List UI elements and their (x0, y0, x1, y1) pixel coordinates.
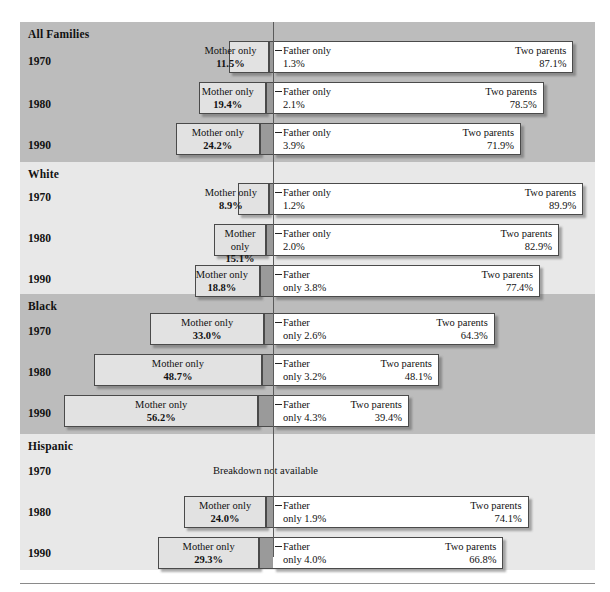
bar-segment-father-only (260, 123, 273, 155)
bar-label-text: Mother only (205, 187, 257, 198)
bar-segment-two-parents: Father only2.0%Two parents82.9% (273, 224, 559, 256)
bar-value-two-parents: 74.1% (495, 513, 522, 524)
bar-label-text: Mother only (183, 541, 235, 552)
bar-label-two-parents: Two parents74.1% (470, 500, 521, 525)
bar-value-father-only: 2.6% (304, 330, 326, 341)
bar-value-father-only: 3.9% (283, 140, 305, 151)
bar-label-text: Mother only (202, 86, 254, 97)
bar-value-mother-only: 11.5% (216, 58, 244, 69)
row-year: 1990 (28, 139, 51, 151)
father-callout-dash (275, 50, 282, 51)
bar-segment-mother-only: Mother only11.5% (229, 41, 269, 73)
bar-value-mother-only: 29.3% (194, 554, 223, 565)
bar-label-mother-only: Mother only24.0% (185, 500, 266, 525)
father-callout-dash (275, 233, 282, 234)
bar-segment-mother-only: Mother only33.0% (150, 313, 264, 345)
bar-value-father-only: 3.8% (304, 282, 326, 293)
bar-value-two-parents: 78.5% (510, 99, 537, 110)
bar-value-father-only: 4.0% (304, 554, 326, 565)
row-year: 1980 (28, 98, 51, 110)
bar-label-text: Two parents (501, 228, 552, 239)
bar-value-two-parents: 48.1% (405, 371, 432, 382)
bar-segment-two-parents: Father only3.9%Two parents71.9% (273, 123, 521, 155)
bar-segment-mother-only: Mother only29.3% (158, 537, 259, 569)
bar-segment-father-only (264, 313, 273, 345)
row-year: 1990 (28, 273, 51, 285)
bar-label-text: Two parents (380, 358, 431, 369)
bar-label-mother-only: Mother only29.3% (159, 541, 258, 566)
bar-value-two-parents: 87.1% (539, 58, 566, 69)
bar-segment-two-parents: Father only2.1%Two parents78.5% (273, 82, 544, 114)
bar-label-two-parents: Two parents82.9% (501, 228, 552, 253)
bar-label-text: Two parents (485, 86, 536, 97)
bar-segment-two-parents: Fatheronly 3.2%Two parents48.1% (273, 354, 439, 386)
bar-segment-mother-only: Mother only48.7% (94, 354, 262, 386)
bar-segment-mother-only: Mother only8.9% (238, 183, 269, 215)
bar-value-father-only: 4.3% (304, 412, 326, 423)
stacked-bar: Mother only11.5%Father only1.3%Two paren… (229, 41, 574, 73)
bar-label-two-parents: Two parents77.4% (482, 269, 533, 294)
row-year: 1970 (28, 325, 51, 337)
row-year: 1970 (28, 465, 51, 477)
bar-value-father-only: 1.3% (283, 58, 305, 69)
father-callout-dash (275, 505, 282, 506)
bar-label-mother-only: Mother only19.4% (189, 86, 267, 111)
bar-segment-two-parents: Fatheronly 4.3%Two parents39.4% (273, 395, 409, 427)
bar-label-mother-only: Mother only11.5% (192, 45, 270, 70)
father-callout-dash (275, 132, 282, 133)
bar-label-text: Mother only (204, 45, 256, 56)
father-callout-dash (275, 363, 282, 364)
bar-label-mother-only: Mother only33.0% (151, 317, 263, 342)
bar-segment-two-parents: Fatheronly 3.8%Two parents77.4% (273, 265, 540, 297)
bar-label-father-only: Father only1.2% (283, 187, 331, 212)
bar-value-two-parents: 77.4% (506, 282, 533, 293)
father-callout-dash (275, 546, 282, 547)
bar-label-text: Two parents (515, 45, 566, 56)
bar-segment-two-parents: Fatheronly 4.0%Two parents66.8% (273, 537, 503, 569)
bar-value-father-only: 1.2% (283, 200, 305, 211)
father-callout-dash (275, 192, 282, 193)
row-year: 1970 (28, 191, 51, 203)
bar-value-mother-only: 18.8% (207, 282, 236, 293)
bar-label-text: Father only (283, 127, 331, 138)
bar-value-mother-only: 56.2% (147, 412, 176, 423)
bar-label-father-only: Father only1.3% (283, 45, 331, 70)
bar-label-two-parents: Two parents89.9% (525, 187, 576, 212)
bar-label-text: Mother only (196, 269, 248, 280)
bar-value-mother-only: 24.2% (203, 140, 232, 151)
row-year: 1980 (28, 232, 51, 244)
stacked-bar: Mother only56.2%Fatheronly 4.3%Two paren… (64, 395, 409, 427)
stacked-bar: Mother only8.9%Father only1.2%Two parent… (238, 183, 583, 215)
bar-label-text: Mother only (152, 358, 204, 369)
bar-segment-mother-only: Mother only19.4% (199, 82, 266, 114)
bar-segment-mother-only: Motheronly15.1% (214, 224, 266, 256)
bar-label-mother-only: Mother only18.8% (183, 269, 261, 294)
bar-label-text: Two parents (350, 399, 401, 410)
bar-label-text: Mother only (135, 399, 187, 410)
bar-value-two-parents: 66.8% (469, 554, 496, 565)
stacked-bar: Mother only18.8%Fatheronly 3.8%Two paren… (195, 265, 540, 297)
bar-label-text: Mother only (181, 317, 233, 328)
bar-value-father-only: 3.2% (304, 371, 326, 382)
bar-value-mother-only: 8.9% (219, 200, 243, 211)
bar-label-text: Father only (283, 228, 331, 239)
bar-value-two-parents: 39.4% (375, 412, 402, 423)
bar-label-mother-only: Mother only24.2% (177, 127, 258, 152)
bar-label-two-parents: Two parents66.8% (445, 541, 496, 566)
breakdown-unavailable-note: Breakdown not available (213, 465, 318, 476)
bar-value-mother-only: 33.0% (193, 330, 222, 341)
bar-value-two-parents: 82.9% (525, 241, 552, 252)
bar-label-father-only: Father only3.9% (283, 127, 331, 152)
stacked-bar: Mother only24.0%Fatheronly 1.9%Two paren… (184, 496, 529, 528)
father-callout-dash (275, 404, 282, 405)
bar-segment-father-only (266, 224, 273, 256)
bar-label-two-parents: Two parents78.5% (485, 86, 536, 111)
bar-label-text: Father only (283, 187, 331, 198)
axis-reference-line (273, 22, 274, 557)
bar-label-father-only: Father only2.1% (283, 86, 331, 111)
bar-segment-two-parents: Father only1.2%Two parents89.9% (273, 183, 583, 215)
row-year: 1980 (28, 366, 51, 378)
bar-value-father-only: 2.0% (283, 241, 305, 252)
bar-value-mother-only: 24.0% (211, 513, 240, 524)
bottom-rule (20, 583, 595, 584)
